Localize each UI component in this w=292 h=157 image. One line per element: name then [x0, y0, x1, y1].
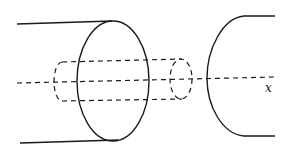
x-axis-line — [17, 77, 275, 83]
inner-cylinder-bottom-edge — [62, 99, 182, 101]
diagram-canvas: x — [0, 0, 292, 157]
cylinder-top-edge — [17, 21, 112, 24]
x-axis-label: x — [265, 81, 272, 95]
cylinder-end-face — [77, 21, 149, 141]
cylinder-bottom-edge — [20, 140, 118, 143]
inner-cylinder-left-cap — [54, 62, 62, 101]
right-curved-surface — [207, 16, 275, 136]
